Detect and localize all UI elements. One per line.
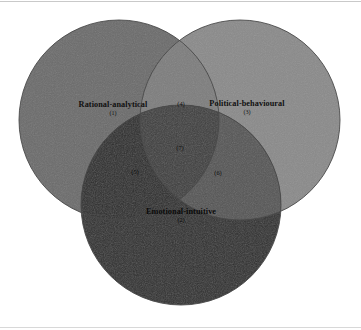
venn-circles — [0, 0, 361, 330]
venn-diagram-figure: Rational-analytical (1) Political-behavi… — [0, 0, 361, 330]
